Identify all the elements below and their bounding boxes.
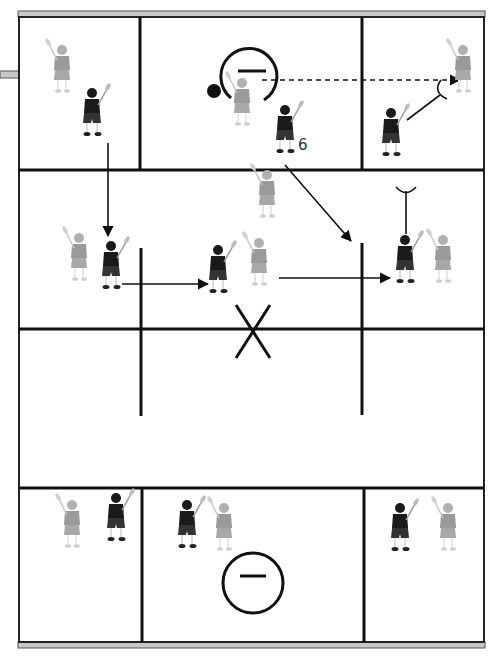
offense-player-icon xyxy=(209,240,238,293)
defense-player-icon xyxy=(241,231,267,286)
offense-player-icon xyxy=(391,498,420,551)
offense-player-icon xyxy=(102,236,131,289)
ball-icon xyxy=(207,84,221,98)
defense-player-icon xyxy=(206,496,232,551)
center-x-mark xyxy=(236,305,270,358)
offense-player-icon xyxy=(178,495,207,548)
defense-player-icon xyxy=(54,493,80,548)
offense-player-icon xyxy=(396,230,425,283)
offense-player-icon xyxy=(382,103,411,156)
cut-arrow xyxy=(285,165,351,241)
defense-player-icon xyxy=(425,228,451,283)
pick-line xyxy=(407,95,440,120)
players xyxy=(44,38,471,551)
defense-player-icon xyxy=(445,38,471,93)
defense-player-icon xyxy=(430,496,456,551)
defense-player-icon xyxy=(224,71,250,126)
offense-player-icon xyxy=(83,83,112,136)
bottom-goal-crease-icon xyxy=(223,553,283,613)
lacrosse-drill-diagram: 6 xyxy=(0,0,494,659)
player-number-label: 6 xyxy=(298,136,308,154)
defense-player-icon xyxy=(61,226,87,281)
offense-player-icon xyxy=(107,488,136,541)
defense-player-icon xyxy=(44,38,70,93)
